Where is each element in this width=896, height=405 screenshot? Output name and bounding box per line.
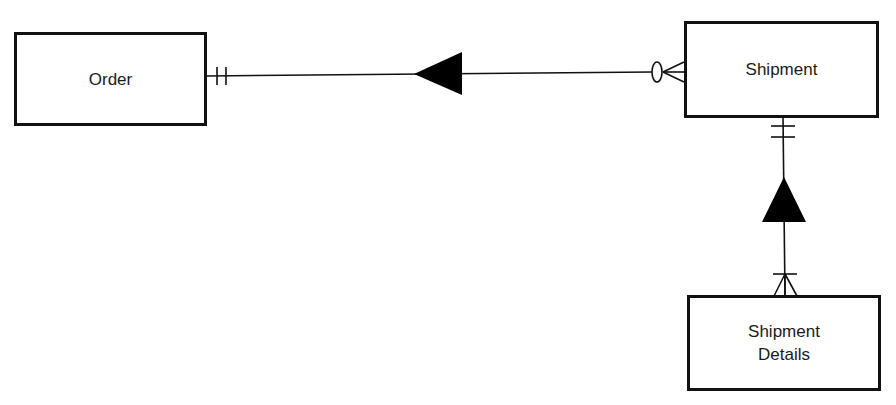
entity-label: Shipment [746, 58, 818, 81]
crows-foot-icon [774, 274, 785, 296]
crows-foot-icon [785, 274, 797, 296]
crows-foot-icon [663, 62, 684, 72]
entity-shipment-details[interactable]: Shipment Details [687, 295, 881, 391]
zero-circle-icon [652, 62, 662, 82]
entity-order[interactable]: Order [14, 32, 207, 126]
direction-arrow-icon [762, 177, 806, 222]
entity-shipment[interactable]: Shipment [684, 21, 879, 118]
entity-label: Order [89, 68, 132, 91]
crows-foot-icon [663, 72, 684, 82]
entity-label: Shipment Details [748, 320, 820, 366]
direction-arrow-icon [414, 52, 462, 95]
